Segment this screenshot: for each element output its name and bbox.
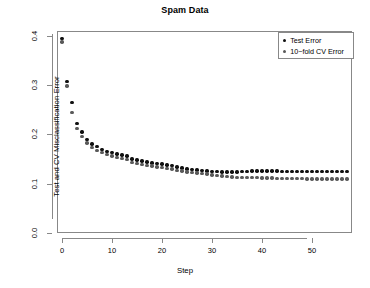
data-point: [320, 170, 323, 173]
legend-marker-icon: [283, 50, 286, 53]
legend-item-test-error: Test Error: [283, 35, 321, 46]
data-point: [220, 174, 223, 177]
data-point: [75, 127, 78, 130]
data-point: [225, 175, 228, 178]
data-point: [70, 101, 73, 104]
data-point: [135, 162, 138, 165]
data-point: [240, 170, 243, 173]
data-point: [255, 176, 258, 179]
data-point: [100, 151, 103, 154]
data-point: [215, 170, 218, 173]
data-point: [335, 177, 338, 180]
data-point: [225, 170, 228, 173]
data-point: [105, 153, 108, 156]
data-point: [275, 177, 278, 180]
x-axis-tick: [62, 238, 63, 243]
data-point: [260, 176, 263, 179]
data-point: [65, 80, 68, 83]
data-point: [90, 146, 93, 149]
data-point: [245, 176, 248, 179]
data-point: [60, 40, 63, 43]
data-point: [290, 170, 293, 173]
data-point: [315, 177, 318, 180]
data-point: [200, 172, 203, 175]
data-point: [305, 170, 308, 173]
data-point: [285, 177, 288, 180]
data-point: [110, 154, 113, 157]
data-point: [75, 122, 78, 125]
chart-figure: Spam Data 0.00.10.20.30.4 Test and CV Mi…: [0, 0, 370, 288]
x-axis-title: Step: [0, 266, 370, 275]
data-point: [175, 169, 178, 172]
data-point: [280, 170, 283, 173]
data-point: [325, 170, 328, 173]
data-point: [310, 170, 313, 173]
x-axis-tick: [312, 238, 313, 243]
data-point: [275, 169, 278, 172]
data-point: [230, 175, 233, 178]
data-point: [300, 170, 303, 173]
legend-marker-icon: [283, 39, 286, 42]
data-point: [80, 130, 83, 133]
y-axis-tick-label: 0.3: [30, 74, 40, 96]
y-axis-tick-label: 0.0: [30, 222, 40, 244]
data-point: [95, 149, 98, 152]
chart-legend: Test Error 10−fold CV Error: [278, 32, 354, 59]
data-point: [80, 135, 83, 138]
data-point: [340, 177, 343, 180]
plot-area: [57, 31, 352, 233]
data-point: [145, 164, 148, 167]
data-point: [65, 84, 68, 87]
data-point: [235, 176, 238, 179]
data-point: [260, 169, 263, 172]
data-point: [195, 171, 198, 174]
data-point: [285, 170, 288, 173]
data-point: [210, 173, 213, 176]
data-point: [205, 172, 208, 175]
y-axis-tick-label: 0.2: [30, 123, 40, 145]
data-point: [270, 176, 273, 179]
data-point: [330, 177, 333, 180]
data-point: [320, 177, 323, 180]
y-axis-tick-label: 0.4: [30, 25, 40, 47]
data-point: [115, 156, 118, 159]
data-point: [280, 177, 283, 180]
data-point: [330, 170, 333, 173]
data-point: [265, 176, 268, 179]
data-point: [215, 174, 218, 177]
data-point: [125, 158, 128, 161]
data-point: [345, 177, 348, 180]
data-point: [340, 170, 343, 173]
data-point: [70, 111, 73, 114]
data-point: [250, 176, 253, 179]
data-point: [95, 145, 98, 148]
x-axis-tick: [112, 238, 113, 243]
x-axis-tick-label: 10: [100, 246, 124, 255]
data-point: [85, 141, 88, 144]
data-point: [345, 170, 348, 173]
data-point: [165, 167, 168, 170]
x-axis-line: [62, 238, 307, 239]
data-point: [120, 157, 123, 160]
data-point: [245, 170, 248, 173]
data-point: [270, 169, 273, 172]
data-point: [150, 164, 153, 167]
y-axis-tick-label: 0.1: [30, 173, 40, 195]
data-point: [230, 170, 233, 173]
data-point: [170, 167, 173, 170]
data-point: [310, 177, 313, 180]
data-point: [240, 176, 243, 179]
data-point: [325, 177, 328, 180]
data-point: [250, 169, 253, 172]
data-point: [305, 177, 308, 180]
chart-title: Spam Data: [0, 5, 370, 16]
legend-label: 10−fold CV Error: [290, 47, 344, 56]
x-axis-tick-label: 40: [250, 246, 274, 255]
data-point: [220, 170, 223, 173]
x-axis-tick: [212, 238, 213, 243]
data-point: [335, 170, 338, 173]
data-point: [290, 177, 293, 180]
data-point: [180, 169, 183, 172]
data-point: [295, 170, 298, 173]
data-point: [190, 171, 193, 174]
